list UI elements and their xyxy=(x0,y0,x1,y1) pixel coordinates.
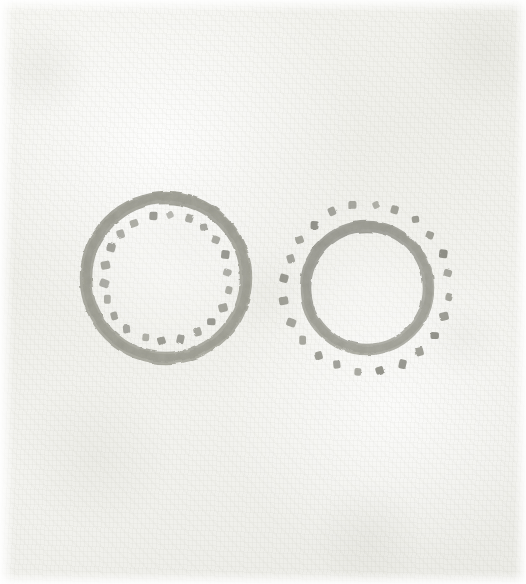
artwork-canvas: Two Dotted Ring Motifs xyxy=(0,0,526,584)
dot-mark xyxy=(327,206,337,217)
right-ring-ink-mottle xyxy=(306,227,429,350)
dot-mark xyxy=(106,243,116,253)
left-dot-ring xyxy=(99,210,233,345)
dot-mark xyxy=(279,273,289,283)
dot-mark xyxy=(185,213,194,223)
dot-mark xyxy=(439,311,450,321)
dot-mark xyxy=(200,223,208,231)
dot-mark xyxy=(99,278,110,289)
dot-mark xyxy=(110,311,119,321)
dot-mark xyxy=(278,296,289,306)
dot-mark xyxy=(221,250,230,260)
dot-mark xyxy=(375,366,385,376)
dot-mark xyxy=(285,317,296,328)
right-ring-figure xyxy=(278,201,453,376)
dot-mark xyxy=(142,333,149,341)
dot-mark xyxy=(294,235,304,245)
dot-mark xyxy=(207,318,215,325)
dot-mark xyxy=(310,221,318,230)
dot-mark xyxy=(439,249,448,259)
dot-mark xyxy=(123,325,131,334)
left-ring-ink-mottle xyxy=(86,198,246,358)
dot-mark xyxy=(149,212,157,221)
dot-mark xyxy=(354,368,361,376)
dot-mark xyxy=(222,268,232,277)
dot-mark xyxy=(348,201,356,209)
dot-mark xyxy=(218,303,229,313)
dot-mark xyxy=(211,235,221,245)
dot-mark xyxy=(116,229,126,239)
dot-mark xyxy=(390,205,399,215)
dot-mark xyxy=(443,268,453,277)
dot-mark xyxy=(129,219,139,229)
dot-mark xyxy=(286,254,296,264)
dot-mark xyxy=(315,351,324,361)
left-ring-figure xyxy=(86,197,247,358)
ring-motifs-drawing xyxy=(0,0,526,584)
dot-mark xyxy=(430,332,438,339)
dot-mark xyxy=(425,230,435,240)
dot-mark xyxy=(372,201,381,210)
dot-mark xyxy=(398,359,407,370)
dot-mark xyxy=(166,210,175,219)
dot-mark xyxy=(333,360,341,369)
dot-mark xyxy=(445,292,453,301)
dot-mark xyxy=(100,260,111,270)
dot-mark xyxy=(176,334,185,345)
dot-mark xyxy=(157,336,167,346)
dot-mark xyxy=(225,286,233,295)
dot-mark xyxy=(415,347,424,357)
dot-mark xyxy=(411,216,419,224)
dot-mark xyxy=(193,327,202,337)
dot-mark xyxy=(104,295,111,304)
dot-mark xyxy=(299,336,306,345)
